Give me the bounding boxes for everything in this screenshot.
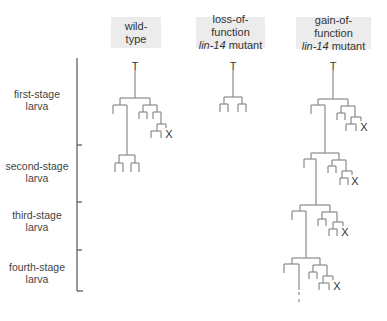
death-marker-gain-l3: X: [341, 226, 349, 238]
death-marker-wild-type: X: [165, 128, 173, 140]
lineage-diagram: T X T: [0, 0, 387, 321]
timeline-axis: [77, 58, 83, 291]
root-marker-gain-of-function: T: [330, 60, 337, 72]
lineage-wild-type: [113, 70, 166, 172]
death-marker-gain-l4: X: [333, 280, 341, 292]
lineage-gain-of-function: [284, 70, 361, 290]
death-marker-gain-l2: X: [351, 175, 359, 187]
lineage-loss-of-function: [220, 70, 246, 112]
death-marker-gain-l1: X: [360, 121, 368, 133]
root-marker-wild-type: T: [132, 60, 139, 72]
root-marker-loss-of-function: T: [230, 60, 237, 72]
